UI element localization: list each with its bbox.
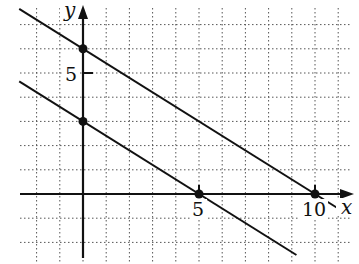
x-axis-label: x	[341, 195, 352, 219]
line-series-1	[19, 9, 338, 209]
axis-labels: y x 5 5 10	[60, 0, 356, 220]
y-axis-label: y	[63, 0, 76, 22]
grid-lines	[20, 8, 350, 262]
coordinate-plane-chart: y x 5 5 10	[0, 0, 359, 264]
x-tick-label-10: 10	[302, 198, 326, 220]
data-lines	[19, 9, 338, 255]
data-point	[79, 117, 88, 126]
x-tick-label-5: 5	[192, 198, 204, 220]
line-series-2	[19, 81, 296, 255]
y-axis-arrow-icon	[78, 5, 88, 19]
data-point	[79, 44, 88, 53]
y-tick-label-5: 5	[65, 63, 77, 85]
axes	[20, 5, 354, 258]
